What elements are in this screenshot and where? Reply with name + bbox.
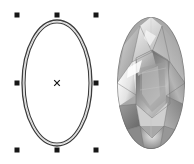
handle-top-left[interactable] (15, 13, 20, 18)
handle-top-right[interactable] (94, 13, 99, 18)
handle-bottom-center[interactable] (55, 148, 60, 153)
center-marker-icon[interactable] (54, 80, 60, 86)
handle-top-center[interactable] (55, 13, 60, 18)
handle-middle-left[interactable] (15, 81, 20, 86)
handle-bottom-left[interactable] (15, 148, 20, 153)
drawing-canvas[interactable] (0, 0, 194, 164)
gem-object[interactable] (117, 17, 185, 149)
canvas-surface[interactable] (0, 0, 194, 164)
handle-bottom-right[interactable] (94, 148, 99, 153)
handle-middle-right[interactable] (94, 81, 99, 86)
